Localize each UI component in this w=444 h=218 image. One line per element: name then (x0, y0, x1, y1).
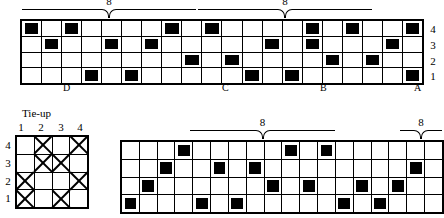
grid-cell-filled[interactable] (303, 37, 323, 52)
grid-cell-empty[interactable] (343, 53, 363, 68)
grid-cell-filled[interactable] (323, 53, 343, 68)
threading-grid[interactable] (20, 19, 424, 85)
grid-cell-filled[interactable] (193, 195, 211, 212)
grid-cell-empty[interactable] (318, 160, 336, 177)
treadling-grid[interactable] (120, 140, 444, 214)
grid-cell-empty[interactable] (263, 68, 283, 83)
grid-cell-empty[interactable] (303, 68, 323, 83)
grid-cell-empty[interactable] (243, 37, 263, 52)
grid-cell-filled[interactable] (142, 37, 162, 52)
grid-cell-empty[interactable] (17, 155, 35, 172)
grid-cell-filled[interactable] (22, 21, 42, 36)
grid-cell-empty[interactable] (263, 21, 283, 36)
grid-cell-empty[interactable] (372, 142, 390, 159)
grid-cell-empty[interactable] (425, 195, 442, 212)
grid-cell-empty[interactable] (247, 178, 265, 195)
grid-cell-empty[interactable] (336, 142, 354, 159)
grid-cell-empty[interactable] (282, 178, 300, 195)
grid-cell-empty[interactable] (265, 142, 283, 159)
grid-cell-empty[interactable] (354, 195, 372, 212)
grid-cell-filled[interactable] (82, 68, 102, 83)
grid-cell-empty[interactable] (407, 178, 425, 195)
grid-cell-empty[interactable] (229, 178, 247, 195)
grid-cell-empty[interactable] (265, 195, 283, 212)
grid-cell-empty[interactable] (243, 53, 263, 68)
grid-cell-empty[interactable] (318, 178, 336, 195)
grid-cell-empty[interactable] (162, 68, 182, 83)
grid-cell-empty[interactable] (62, 68, 82, 83)
grid-cell-empty[interactable] (182, 21, 202, 36)
grid-cell-empty[interactable] (175, 160, 193, 177)
grid-cell-empty[interactable] (383, 68, 403, 83)
grid-cell-empty[interactable] (354, 160, 372, 177)
grid-cell-empty[interactable] (162, 53, 182, 68)
grid-cell-filled[interactable] (229, 195, 247, 212)
grid-cell-empty[interactable] (17, 137, 35, 154)
grid-cell-empty[interactable] (303, 53, 323, 68)
grid-cell-empty[interactable] (42, 21, 62, 36)
grid-cell-empty[interactable] (263, 53, 283, 68)
grid-cell-empty[interactable] (62, 37, 82, 52)
grid-cell-empty[interactable] (22, 37, 42, 52)
grid-cell-empty[interactable] (247, 195, 265, 212)
grid-cell-filled[interactable] (202, 21, 222, 36)
grid-cell-filled[interactable] (318, 142, 336, 159)
grid-cell-empty[interactable] (383, 21, 403, 36)
grid-cell-empty[interactable] (122, 142, 140, 159)
grid-cell-filled[interactable] (283, 68, 303, 83)
grid-cell-empty[interactable] (202, 53, 222, 68)
grid-cell-empty[interactable] (283, 37, 303, 52)
grid-cell-empty[interactable] (22, 68, 42, 83)
grid-cell-empty[interactable] (363, 21, 383, 36)
grid-cell-filled[interactable] (354, 178, 372, 195)
grid-cell-empty[interactable] (372, 160, 390, 177)
grid-cell-empty[interactable] (323, 21, 343, 36)
grid-cell-filled[interactable] (35, 155, 53, 172)
grid-cell-empty[interactable] (243, 21, 263, 36)
grid-cell-empty[interactable] (363, 68, 383, 83)
grid-cell-empty[interactable] (182, 68, 202, 83)
grid-cell-empty[interactable] (425, 160, 442, 177)
grid-cell-empty[interactable] (229, 142, 247, 159)
grid-cell-filled[interactable] (17, 190, 35, 207)
grid-cell-empty[interactable] (53, 137, 71, 154)
grid-cell-empty[interactable] (363, 37, 383, 52)
grid-cell-empty[interactable] (407, 195, 425, 212)
grid-cell-empty[interactable] (389, 142, 407, 159)
grid-cell-empty[interactable] (82, 53, 102, 68)
grid-cell-filled[interactable] (263, 37, 283, 52)
grid-cell-empty[interactable] (102, 53, 122, 68)
grid-cell-filled[interactable] (182, 53, 202, 68)
grid-cell-filled[interactable] (407, 160, 425, 177)
grid-cell-empty[interactable] (300, 160, 318, 177)
grid-cell-filled[interactable] (211, 160, 229, 177)
grid-cell-filled[interactable] (222, 53, 242, 68)
grid-cell-empty[interactable] (158, 195, 176, 212)
grid-cell-empty[interactable] (372, 178, 390, 195)
grid-cell-filled[interactable] (62, 21, 82, 36)
grid-cell-empty[interactable] (193, 178, 211, 195)
grid-cell-empty[interactable] (425, 142, 442, 159)
grid-cell-filled[interactable] (162, 21, 182, 36)
grid-cell-empty[interactable] (53, 173, 71, 190)
grid-cell-filled[interactable] (389, 178, 407, 195)
grid-cell-empty[interactable] (211, 195, 229, 212)
grid-cell-empty[interactable] (122, 53, 142, 68)
grid-cell-empty[interactable] (158, 142, 176, 159)
grid-cell-filled[interactable] (35, 137, 53, 154)
grid-cell-empty[interactable] (407, 142, 425, 159)
grid-cell-empty[interactable] (283, 53, 303, 68)
grid-cell-empty[interactable] (323, 68, 343, 83)
grid-cell-empty[interactable] (389, 195, 407, 212)
grid-cell-empty[interactable] (222, 68, 242, 83)
grid-cell-filled[interactable] (383, 37, 403, 52)
grid-cell-filled[interactable] (42, 37, 62, 52)
grid-cell-empty[interactable] (182, 37, 202, 52)
grid-cell-empty[interactable] (389, 160, 407, 177)
grid-cell-filled[interactable] (303, 21, 323, 36)
grid-cell-empty[interactable] (140, 160, 158, 177)
grid-cell-empty[interactable] (142, 21, 162, 36)
grid-cell-empty[interactable] (283, 21, 303, 36)
grid-cell-empty[interactable] (343, 68, 363, 83)
grid-cell-empty[interactable] (122, 37, 142, 52)
